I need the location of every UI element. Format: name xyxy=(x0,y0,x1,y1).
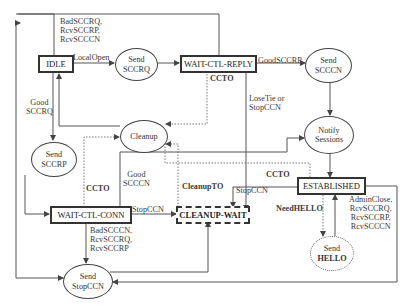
state-cleanup-wait: CLEANUP-WAIT xyxy=(176,206,250,224)
label-ccto-conn: CCTO xyxy=(86,184,110,193)
action-send-scccn: Send SCCCN xyxy=(305,48,352,83)
state-wait-ctl-reply: WAIT-CTL-REPLY xyxy=(180,55,257,73)
action-notify-sessions: Notify Sessions xyxy=(304,116,354,154)
state-idle: IDLE xyxy=(38,55,74,73)
label-ccto-reply: CCTO xyxy=(210,74,234,83)
label-stopccn-conn: StopCCN xyxy=(132,205,164,214)
label-local-open: LocalOpen xyxy=(73,53,109,62)
state-wait-ctl-conn: WAIT-CTL-CONN xyxy=(50,206,132,224)
action-cleanup: Cleanup xyxy=(120,120,168,153)
label-losetie: LoseTie or StopCCN xyxy=(249,94,284,112)
label-good-sccrq: Good SCCRQ xyxy=(26,98,53,116)
action-send-hello: Send HELLO xyxy=(310,236,354,271)
label-need-hello: NeedHELLO xyxy=(276,204,323,213)
action-send-stopccn: Send StopCCN xyxy=(63,264,113,299)
label-good-scccn: Good SCCCN xyxy=(123,170,150,188)
state-established: ESTABLISHED xyxy=(297,177,366,195)
label-conn-bad: BadSCCCN, RcvSCCRQ, RcvSCCRP xyxy=(90,226,132,253)
label-good-sccrp: GoodSCCRP xyxy=(258,56,302,65)
action-send-sccrp: Send SCCRP xyxy=(31,142,77,177)
label-stopccn-est: StopCCN xyxy=(236,186,268,195)
action-send-sccrq: Send SCCRQ xyxy=(115,48,158,81)
label-cleanup-to: CleanupTO xyxy=(182,182,223,191)
label-idle-bad: BadSCCRQ, RcvSCCRP, RcvSCCCN xyxy=(60,17,102,44)
label-ccto-est: CCTO xyxy=(266,170,290,179)
label-est-close: AdminClose, RcvSCCRQ, RcvSCCRP, RcvSCCCN xyxy=(349,195,392,231)
